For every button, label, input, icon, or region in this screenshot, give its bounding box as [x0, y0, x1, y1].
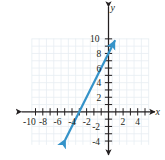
- y-tick-label-6: 6: [96, 64, 101, 74]
- line-graph-figure: -10 -8 -6 -4 -2 2 4 10 8 6 4 2 -2 -4 x y: [0, 0, 165, 160]
- y-axis-name-label: y: [110, 2, 116, 13]
- y-tick-label-4: 4: [96, 78, 101, 88]
- x-tick-label-neg6: -6: [54, 117, 62, 127]
- coordinate-plane-svg: -10 -8 -6 -4 -2 2 4 10 8 6 4 2 -2 -4 x y: [0, 0, 165, 160]
- y-tick-label-8: 8: [96, 49, 101, 59]
- y-tick-label-2: 2: [96, 93, 101, 103]
- x-tick-label-neg10: -10: [23, 117, 36, 127]
- x-tick-labels: -10 -8 -6 -4 -2 2 4: [23, 117, 140, 127]
- y-tick-label-neg4: -4: [92, 137, 100, 147]
- x-tick-label-neg8: -8: [39, 117, 47, 127]
- y-axis: [105, 7, 112, 155]
- y-tick-labels: 10 8 6 4 2 -2 -4: [90, 34, 101, 146]
- y-tick-label-10: 10: [90, 34, 100, 44]
- x-tick-label-2: 2: [121, 117, 126, 127]
- x-tick-label-neg2: -2: [83, 117, 91, 127]
- x-axis: [22, 108, 156, 115]
- x-tick-label-4: 4: [135, 117, 140, 127]
- y-tick-label-neg2: -2: [92, 122, 100, 132]
- x-tick-label-neg4: -4: [68, 117, 76, 127]
- x-axis-name-label: x: [155, 106, 161, 117]
